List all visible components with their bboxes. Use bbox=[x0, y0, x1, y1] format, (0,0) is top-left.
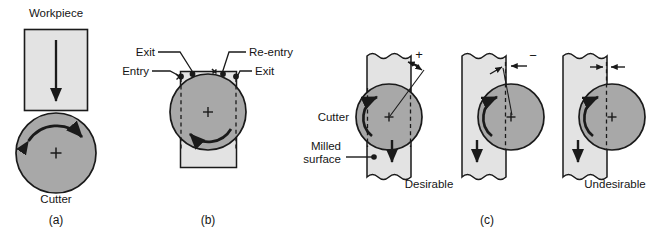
c3-verdict: Undesirable bbox=[584, 178, 645, 190]
panel-b-leader-exit-right bbox=[238, 71, 253, 76]
panel-c-cutter-label: Cutter bbox=[318, 111, 349, 123]
panel-b-label-exit-left: Exit bbox=[136, 46, 156, 58]
panel-b: Exit Entry Re-entry Exit (b) bbox=[122, 46, 293, 227]
panel-b-label-reentry: Re-entry bbox=[249, 46, 293, 58]
panel-c: + Desirable Cutter Milled surface − bbox=[303, 47, 645, 227]
panel-c-caption: (c) bbox=[480, 213, 494, 227]
panel-c-diagram-2: − bbox=[462, 48, 544, 180]
workpiece-label: Workpiece bbox=[29, 7, 83, 19]
panel-b-leader-entry-left bbox=[152, 71, 180, 76]
panel-c-diagram-1: + Desirable bbox=[356, 47, 453, 190]
c2-sign: − bbox=[529, 48, 537, 63]
c1-arrow-b bbox=[410, 62, 422, 70]
panel-c-milled-surface-dot bbox=[371, 154, 377, 160]
panel-b-label-entry: Entry bbox=[122, 65, 149, 77]
panel-c-diagram-3: Undesirable bbox=[563, 54, 646, 191]
panel-c-milled-surface-line1: Milled bbox=[311, 140, 341, 152]
panel-b-leader-exit-left bbox=[158, 52, 193, 73]
panel-c-milled-surface-line2: surface bbox=[303, 153, 341, 165]
c1-verdict: Desirable bbox=[405, 178, 454, 190]
panel-a-cutter-label: Cutter bbox=[40, 193, 71, 205]
panel-a: Workpiece Cutter (a) bbox=[16, 7, 96, 227]
panel-b-leader-reentry bbox=[223, 52, 247, 72]
figure-milling-entry-exit: Workpiece Cutter (a) bbox=[0, 0, 654, 231]
panel-b-caption: (b) bbox=[201, 213, 216, 227]
panel-b-label-exit-right: Exit bbox=[255, 65, 275, 77]
panel-a-caption: (a) bbox=[49, 213, 64, 227]
c1-sign: + bbox=[415, 47, 423, 62]
